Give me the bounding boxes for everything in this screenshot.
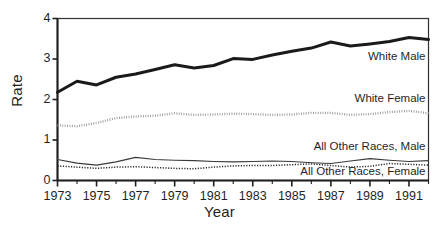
x-tick-label: 1991 [386,189,432,203]
y-axis-title: Rate [8,61,25,121]
y-tick-label: 4 [27,11,51,25]
series-annotation-label: All Other Races, Female [0,165,426,177]
series-line-2 [58,157,429,165]
series-line-1 [58,111,429,126]
series-annotation-label: White Female [0,92,426,104]
series-annotation-label: White Male [0,50,426,62]
series-line-0 [58,38,429,93]
chart-figure: Rate Year 01234 197319751977197919811983… [0,0,439,228]
series-annotation-label: All Other Races, Male [0,140,426,152]
x-axis-title: Year [0,203,439,220]
